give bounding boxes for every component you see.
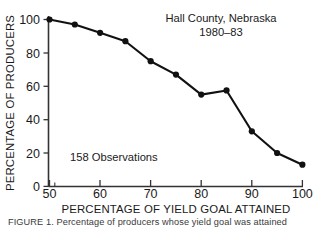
data-point (223, 87, 229, 93)
x-axis-tick-labels: 50 60 70 80 90 100 (43, 187, 313, 201)
y-tick-label: 40 (26, 113, 40, 127)
y-axis-tick-labels: 100 80 60 40 20 0 (19, 13, 40, 194)
x-axis-title: PERCENTAGE OF YIELD GOAL ATTAINED (61, 203, 290, 215)
y-tick-label: 60 (26, 80, 40, 94)
chart-title-line2: 1980–83 (199, 26, 243, 38)
data-point (122, 38, 128, 44)
x-tick-label: 90 (245, 187, 259, 201)
y-tick-label: 0 (33, 180, 40, 194)
data-point (72, 21, 78, 27)
line-chart: 100 80 60 40 20 0 50 60 70 80 90 100 (0, 0, 322, 227)
x-tick-label: 100 (292, 187, 313, 201)
x-tick-label: 70 (144, 187, 158, 201)
data-point (173, 71, 179, 77)
data-point (46, 16, 52, 22)
observations-annotation: 158 Observations (70, 151, 158, 163)
x-tick-label: 50 (43, 187, 57, 201)
x-axis-ticks (50, 180, 303, 187)
y-tick-label: 20 (26, 147, 40, 161)
data-point (97, 30, 103, 36)
x-tick-label: 80 (194, 187, 208, 201)
data-point (274, 150, 280, 156)
x-tick-label: 60 (93, 187, 107, 201)
y-axis-title: PERCENTAGE OF PRODUCERS (4, 15, 16, 191)
figure-caption: FIGURE 1. Percentage of producers whose … (8, 217, 287, 227)
figure-container: 100 80 60 40 20 0 50 60 70 80 90 100 (0, 0, 322, 227)
y-tick-label: 100 (19, 13, 40, 27)
data-point (299, 162, 305, 168)
data-line-series-0 (50, 20, 303, 165)
data-point (249, 128, 255, 134)
y-tick-label: 80 (26, 47, 40, 61)
data-point (198, 92, 204, 98)
chart-title-line1: Hall County, Nebraska (165, 12, 277, 24)
data-point (148, 58, 154, 64)
